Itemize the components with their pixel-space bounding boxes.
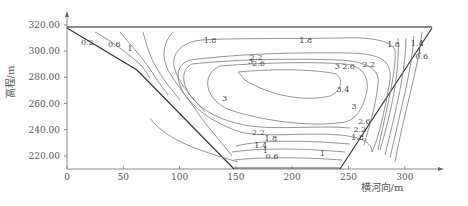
contour-label: 1	[128, 44, 133, 53]
contour-0.2-left	[95, 32, 150, 78]
x-tick-label: 300	[396, 172, 413, 182]
contour-2.6-bottom	[184, 64, 350, 128]
y-ticks: 220.00240.00260.00280.00300.00320.00	[29, 20, 68, 161]
contour-label: 2.6	[252, 59, 265, 68]
x-axis-label: 横河向/m	[361, 181, 404, 193]
contour-right-3	[390, 36, 414, 158]
x-tick-label: 50	[118, 172, 130, 182]
contour-label: 3	[335, 62, 340, 71]
y-tick-label: 240.00	[29, 125, 61, 135]
contour-label: 3	[352, 102, 357, 111]
contour-label: 0.6	[415, 52, 428, 61]
left-bank	[67, 28, 234, 169]
y-axis-label: 高程/m	[4, 65, 16, 98]
y-tick-label: 260.00	[29, 99, 61, 109]
contour-1-left	[143, 32, 180, 100]
contour-label: 2.6	[342, 62, 355, 71]
x-tick-label: 100	[171, 172, 188, 182]
y-tick-label: 300.00	[29, 46, 61, 56]
contour-label: 1.8	[204, 36, 217, 45]
contour-1.4-bottom	[236, 141, 350, 146]
contour-3.4	[238, 70, 341, 98]
y-tick-label: 220.00	[29, 151, 61, 161]
x-tick-label: 0	[64, 172, 70, 182]
contour-label: 2.2	[252, 128, 265, 137]
contour-label: 1	[320, 149, 325, 158]
x-tick-label: 200	[284, 172, 301, 182]
contour-label: 3	[222, 94, 227, 103]
x-tick-label: 250	[340, 172, 357, 182]
contour-label: 1.8	[351, 133, 364, 142]
contour-label: 3.4	[337, 85, 350, 94]
contour-chart: 220.00240.00260.00280.00300.00320.00 050…	[0, 0, 468, 206]
contour-2.6-top	[192, 59, 378, 145]
y-tick-label: 320.00	[29, 20, 61, 30]
contour-label: 1.8	[387, 40, 400, 49]
y-axis-arrow-icon	[65, 11, 69, 17]
contour-label: 0.2	[81, 38, 94, 47]
contour-label: 2.2	[362, 60, 375, 69]
y-tick-label: 280.00	[29, 72, 61, 82]
contour-label: 1.8	[299, 36, 312, 45]
x-axis-arrow-icon	[438, 167, 444, 171]
contour-label: 0.6	[266, 152, 279, 161]
chart-svg: 220.00240.00260.00280.00300.00320.00 050…	[0, 0, 468, 206]
contour-0.6-bottom	[234, 158, 342, 160]
contour-1-bottom	[232, 149, 345, 152]
section-outline	[67, 27, 432, 169]
contour-label: 0.6	[108, 40, 121, 49]
x-tick-label: 150	[227, 172, 244, 182]
